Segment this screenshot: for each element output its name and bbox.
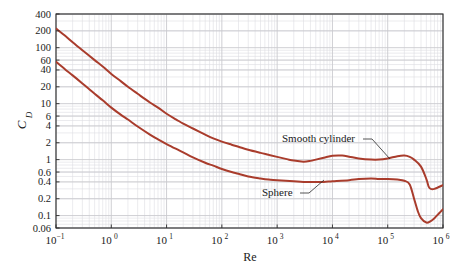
y-tick-label: 100	[35, 42, 51, 53]
svg-text:5: 5	[390, 232, 394, 241]
x-tick-label: 106	[433, 232, 450, 246]
x-tick-label: 105	[377, 232, 394, 246]
svg-text:1: 1	[169, 232, 173, 241]
y-tick-label: 0.06	[33, 223, 51, 234]
y-tick-label: 1	[46, 154, 51, 165]
annotation-label: Smooth cylinder	[282, 132, 355, 144]
y-tick-label: 200	[35, 25, 51, 36]
svg-text:3: 3	[280, 232, 284, 241]
svg-text:10: 10	[156, 234, 168, 246]
grid-minor-lines	[56, 14, 443, 228]
x-tick-label: 10−1	[46, 232, 65, 246]
svg-text:10: 10	[101, 234, 113, 246]
y-tick-label: 4	[46, 120, 52, 131]
y-tick-label: 0.4	[38, 176, 52, 187]
drag-coefficient-chart: 4002001006040201064210.60.40.20.10.06 10…	[0, 0, 465, 269]
y-tick-label: 400	[35, 9, 51, 20]
svg-text:6: 6	[446, 232, 450, 241]
x-tick-label: 102	[211, 232, 228, 246]
y-tick-label: 0.1	[38, 210, 51, 221]
svg-text:10: 10	[267, 234, 279, 246]
annotation-leader-line	[363, 139, 390, 159]
y-axis-title-text: C	[14, 120, 29, 129]
svg-text:10: 10	[377, 234, 389, 246]
x-axis-title: Re	[243, 250, 256, 264]
svg-text:10: 10	[322, 234, 334, 246]
svg-text:10: 10	[46, 234, 58, 246]
chart-svg: 4002001006040201064210.60.40.20.10.06 10…	[0, 0, 465, 269]
svg-text:4: 4	[335, 232, 339, 241]
annotation-label: Sphere	[262, 186, 293, 198]
svg-text:10: 10	[211, 234, 223, 246]
svg-text:0: 0	[114, 232, 118, 241]
y-tick-label: 2	[46, 137, 51, 148]
x-tick-label: 100	[101, 232, 118, 246]
svg-text:10: 10	[433, 234, 445, 246]
x-tick-label: 101	[156, 232, 173, 246]
y-axis-title-subscript: D	[24, 111, 34, 119]
svg-text:2: 2	[224, 232, 228, 241]
y-axis-title: C D	[14, 111, 34, 129]
y-tick-label: 10	[41, 98, 52, 109]
y-tick-label: 20	[41, 81, 52, 92]
x-tick-label: 103	[267, 232, 284, 246]
x-tick-label: 104	[322, 232, 339, 246]
svg-text:−1: −1	[57, 232, 65, 241]
y-tick-label: 40	[41, 64, 52, 75]
y-tick-label: 0.2	[38, 193, 51, 204]
